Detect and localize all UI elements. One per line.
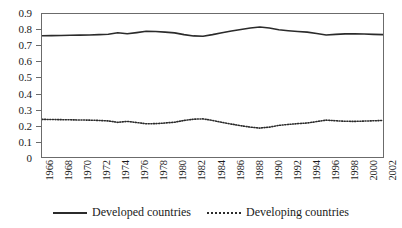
x-tick-label: 1986 — [236, 160, 247, 181]
y-tick-label: 0.9 — [19, 8, 32, 19]
plot-canvas — [42, 14, 383, 157]
x-tick-label: 1980 — [178, 160, 189, 181]
y-tick-label: 0 — [27, 153, 32, 164]
y-tick-label: 0.1 — [19, 136, 32, 147]
legend: Developed countries Developing countries — [0, 202, 402, 222]
x-tick-label: 1966 — [45, 160, 56, 181]
x-tick-label: 1968 — [64, 160, 75, 181]
x-tick-label: 1970 — [83, 160, 94, 181]
y-tick-label: 0.4 — [19, 88, 32, 99]
x-tick-label: 1976 — [140, 160, 151, 181]
dotted-line-swatch-icon — [207, 208, 241, 217]
y-tick-label: 0.3 — [19, 104, 32, 115]
y-tick-label: 0.5 — [19, 72, 32, 83]
x-tick-label: 2000 — [369, 160, 380, 181]
legend-item-developed-countries: Developed countries — [53, 206, 191, 218]
x-tick-label: 1972 — [102, 160, 113, 181]
x-tick-label: 2002 — [388, 160, 399, 181]
series-developing-countries-line — [42, 119, 383, 128]
x-tick-label: 1996 — [331, 160, 342, 181]
legend-label: Developing countries — [246, 206, 349, 218]
line-chart-figure: 0.90.80.70.60.50.40.30.20.10 19661968197… — [0, 0, 402, 228]
x-tick-label: 1992 — [293, 160, 304, 181]
solid-line-swatch-icon — [53, 208, 87, 217]
y-tick-label: 0.8 — [19, 24, 32, 35]
x-tick-label: 1982 — [197, 160, 208, 181]
y-axis: 0.90.80.70.60.50.40.30.20.10 — [0, 0, 41, 171]
series-developed-countries-line — [42, 27, 383, 36]
x-tick-label: 1990 — [274, 160, 285, 181]
x-tick-label: 1988 — [255, 160, 266, 181]
x-tick-label: 1978 — [159, 160, 170, 181]
x-tick-label: 1974 — [121, 160, 132, 181]
x-tick-label: 1998 — [350, 160, 361, 181]
legend-item-developing-countries: Developing countries — [207, 206, 349, 218]
y-tick-label: 0.6 — [19, 56, 32, 67]
x-tick-label: 1984 — [217, 160, 228, 181]
y-tick-label: 0.7 — [19, 40, 32, 51]
y-tick-label: 0.2 — [19, 120, 32, 131]
legend-label: Developed countries — [92, 206, 191, 218]
plot-area — [41, 13, 384, 158]
x-tick-label: 1994 — [312, 160, 323, 181]
x-axis: 1966196819701972197419761978198019821984… — [41, 160, 384, 200]
